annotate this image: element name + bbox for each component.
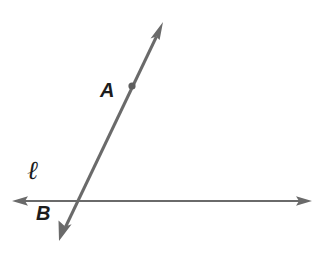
point-a-label: A — [100, 80, 114, 100]
transversal-line — [59, 22, 164, 241]
point-a-marker — [128, 82, 135, 89]
line-ell-label: ℓ — [27, 158, 38, 184]
horizontal-line-ell — [12, 196, 312, 206]
transversal-shaft — [66, 37, 157, 228]
point-b-label: B — [36, 203, 50, 223]
transversal-bottom-arrowhead — [59, 221, 72, 242]
geometry-figure: A B ℓ — [0, 0, 321, 258]
